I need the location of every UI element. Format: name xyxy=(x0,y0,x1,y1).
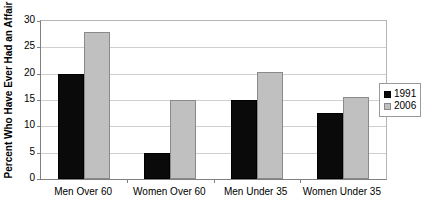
legend-item: 1991 xyxy=(384,88,416,100)
x-axis-tickmark xyxy=(127,179,128,183)
legend-swatch-2006-icon xyxy=(384,103,391,110)
x-axis-category-labels: Men Over 60Women Over 60Men Under 35Wome… xyxy=(40,186,385,217)
y-axis-tickmark xyxy=(37,179,41,180)
bar-2006-men-over-60 xyxy=(84,32,110,179)
y-axis-tickmark xyxy=(37,47,41,48)
x-axis-label: Women Over 60 xyxy=(126,186,212,198)
y-axis-tickmark xyxy=(37,74,41,75)
legend-swatch-1991-icon xyxy=(384,91,391,98)
x-axis-label: Men Under 35 xyxy=(213,186,299,198)
plot-inner xyxy=(41,21,386,179)
bar-2006-women-under-35 xyxy=(343,97,369,179)
x-axis-tickmark xyxy=(300,179,301,183)
y-axis-tickmark xyxy=(37,21,41,22)
chart-legend: 1991 2006 xyxy=(379,83,421,117)
y-axis-tick-label: 5 xyxy=(29,147,35,157)
bar-1991-men-over-60 xyxy=(58,74,84,179)
bar-1991-women-under-35 xyxy=(317,113,343,179)
x-axis-label: Women Under 35 xyxy=(299,186,385,198)
plot-area xyxy=(40,20,387,180)
legend-label-2006: 2006 xyxy=(394,101,416,111)
bar-2006-women-over-60 xyxy=(170,100,196,179)
y-axis-tick-label: 25 xyxy=(24,41,35,51)
y-axis-tick-label: 10 xyxy=(24,120,35,130)
y-axis-tickmark xyxy=(37,126,41,127)
x-axis-label: Men Over 60 xyxy=(40,186,126,198)
x-axis-tickmark xyxy=(214,179,215,183)
bar-1991-men-under-35 xyxy=(231,100,257,179)
bar-chart: Percent Who Have Ever Had an Affair 0510… xyxy=(0,0,432,217)
y-axis-title-text: Percent Who Have Ever Had an Affair xyxy=(4,2,14,179)
y-axis-tick-label: 20 xyxy=(24,68,35,78)
bar-2006-men-under-35 xyxy=(257,72,283,179)
bar-1991-women-over-60 xyxy=(144,153,170,179)
legend-item: 2006 xyxy=(384,100,416,112)
y-axis-tick-label: 15 xyxy=(24,94,35,104)
y-axis-tick-label: 30 xyxy=(24,15,35,25)
y-axis-tick-label: 0 xyxy=(29,173,35,183)
y-axis-tickmark xyxy=(37,100,41,101)
y-axis-tickmark xyxy=(37,153,41,154)
y-axis-title: Percent Who Have Ever Had an Affair xyxy=(0,0,18,180)
legend-label-1991: 1991 xyxy=(394,89,416,99)
y-axis-tick-labels: 051015202530 xyxy=(18,0,38,185)
